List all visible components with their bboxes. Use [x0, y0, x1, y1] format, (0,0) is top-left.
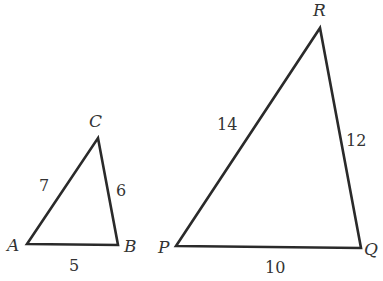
triangle-abc: A B C 5 6 7 [5, 111, 137, 275]
side-label-bc: 6 [116, 181, 126, 200]
side-label-ac: 7 [39, 176, 49, 195]
diagram-canvas: A B C 5 6 7 P Q R 10 12 14 [0, 0, 383, 281]
vertex-label-b: B [123, 236, 137, 256]
triangle-pqr: P Q R 10 12 14 [157, 0, 378, 277]
vertex-label-p: P [157, 237, 170, 257]
side-label-ab: 5 [69, 256, 79, 275]
side-label-qr: 12 [346, 131, 366, 150]
side-label-pq: 10 [265, 258, 285, 277]
vertex-label-r: R [312, 0, 326, 20]
vertex-label-c: C [89, 111, 102, 131]
vertex-label-a: A [5, 235, 19, 255]
vertex-label-q: Q [364, 239, 378, 259]
side-label-pr: 14 [217, 115, 237, 134]
triangle-pqr-outline [176, 28, 361, 248]
